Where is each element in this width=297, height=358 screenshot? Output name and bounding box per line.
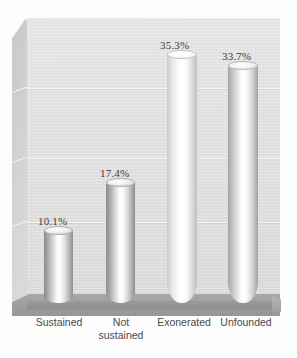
bar-top-ellipse xyxy=(44,226,73,235)
bar-cylinder xyxy=(228,66,258,303)
bar-body xyxy=(106,183,135,303)
bar-4[interactable] xyxy=(228,66,258,303)
bar-3[interactable] xyxy=(167,55,197,303)
bar-series: 10.1%17.4%35.3%33.7% xyxy=(0,0,297,358)
bar-body xyxy=(167,55,197,303)
category-axis-labels: SustainedNot sustainedExoneratedUnfounde… xyxy=(0,316,297,358)
category-label-4: Unfounded xyxy=(206,316,286,329)
bar-value-label-3: 35.3% xyxy=(160,39,189,51)
bar-cylinder xyxy=(106,183,135,303)
bar-value-label-1: 10.1% xyxy=(38,215,67,227)
bar-chart: 10.1%17.4%35.3%33.7% SustainedNot sustai… xyxy=(0,0,297,358)
bar-top-ellipse xyxy=(167,50,197,59)
bar-body xyxy=(44,231,73,303)
bar-cylinder xyxy=(167,55,197,303)
bar-cylinder xyxy=(44,231,73,303)
bar-1[interactable] xyxy=(44,231,73,303)
bar-2[interactable] xyxy=(106,183,135,303)
bar-top-ellipse xyxy=(106,178,135,187)
bar-value-label-4: 33.7% xyxy=(222,50,251,62)
bar-value-label-2: 17.4% xyxy=(100,167,129,179)
bar-top-ellipse xyxy=(228,61,258,70)
bar-body xyxy=(228,66,258,303)
